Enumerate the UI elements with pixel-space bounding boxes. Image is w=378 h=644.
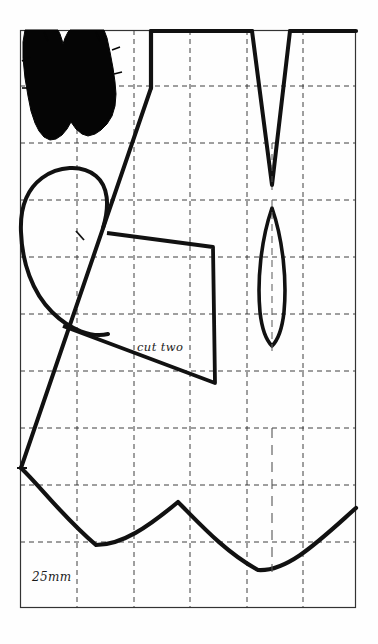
filled-scalloped-piece xyxy=(23,30,116,140)
pattern-drawing xyxy=(0,0,378,644)
cut-two-label: cut two xyxy=(137,340,183,354)
scale-label: 25mm xyxy=(32,570,72,584)
pattern-sheet: cut two 25mm xyxy=(0,0,378,644)
